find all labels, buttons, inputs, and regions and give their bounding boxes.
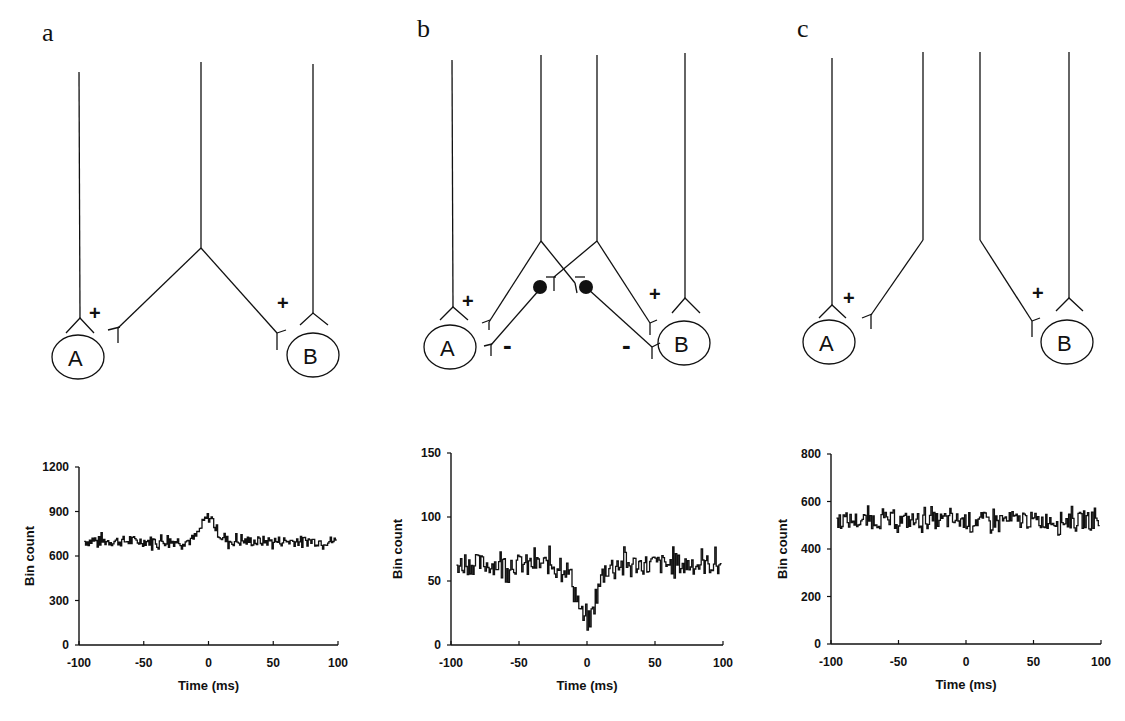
y-axis-title: Bin count bbox=[775, 518, 790, 579]
y-tick-label: 150 bbox=[421, 446, 441, 460]
x-tick-label: 0 bbox=[205, 656, 212, 670]
correlogram-trace bbox=[836, 506, 1099, 535]
y-tick-label: 400 bbox=[801, 542, 821, 556]
y-tick-label: 1200 bbox=[42, 460, 69, 474]
correlogram-trace bbox=[84, 514, 337, 551]
y-axis-title: Bin count bbox=[390, 518, 405, 579]
y-tick-label: 0 bbox=[814, 637, 821, 651]
x-tick-label: 100 bbox=[1091, 655, 1111, 669]
y-tick-label: 800 bbox=[801, 447, 821, 461]
y-tick-label: 0 bbox=[62, 638, 69, 652]
x-tick-label: -100 bbox=[819, 655, 843, 669]
y-tick-label: 600 bbox=[49, 549, 69, 563]
x-tick-label: -100 bbox=[439, 656, 463, 670]
y-axis-title: Bin count bbox=[22, 525, 37, 586]
x-tick-label: 0 bbox=[963, 655, 970, 669]
x-tick-label: 50 bbox=[1027, 655, 1041, 669]
y-tick-label: 600 bbox=[801, 495, 821, 509]
y-tick-label: 900 bbox=[49, 505, 69, 519]
x-tick-label: 0 bbox=[584, 656, 591, 670]
y-tick-label: 0 bbox=[434, 638, 441, 652]
x-tick-label: 50 bbox=[648, 656, 662, 670]
x-tick-label: 50 bbox=[267, 656, 281, 670]
x-axis-title: Time (ms) bbox=[556, 678, 617, 693]
x-tick-label: -50 bbox=[890, 655, 908, 669]
x-axis-title: Time (ms) bbox=[935, 677, 996, 692]
x-tick-label: 100 bbox=[713, 656, 733, 670]
x-tick-label: -50 bbox=[510, 656, 528, 670]
correlogram-charts: 03006009001200-100-50050100Time (ms)Bin … bbox=[0, 0, 1125, 721]
x-tick-label: 100 bbox=[328, 656, 348, 670]
y-tick-label: 300 bbox=[49, 594, 69, 608]
x-tick-label: -50 bbox=[135, 656, 153, 670]
y-tick-label: 50 bbox=[428, 574, 442, 588]
y-tick-label: 100 bbox=[421, 510, 441, 524]
x-tick-label: -100 bbox=[67, 656, 91, 670]
correlogram-trace bbox=[456, 546, 721, 630]
y-tick-label: 200 bbox=[801, 590, 821, 604]
x-axis-title: Time (ms) bbox=[178, 678, 239, 693]
